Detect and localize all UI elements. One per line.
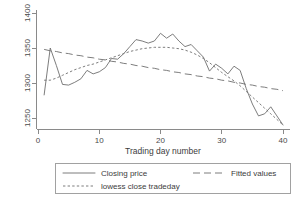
- y-tick-label: 1350: [23, 39, 32, 57]
- legend-label: lowess close tradeday: [101, 182, 180, 191]
- x-tick-label: 0: [36, 136, 41, 145]
- y-tick-label: 1300: [23, 74, 32, 92]
- x-tick-label: 40: [279, 136, 288, 145]
- legend-label: Fitted values: [231, 169, 276, 178]
- legend-label: Closing price: [101, 169, 148, 178]
- x-tick-label: 10: [95, 136, 104, 145]
- x-tick-label: 30: [217, 136, 226, 145]
- x-tick-label: 20: [156, 136, 165, 145]
- y-tick-label: 1400: [23, 4, 32, 22]
- chart-legend: Closing priceFitted valueslowess close t…: [56, 164, 291, 194]
- y-tick-label: 1250: [23, 109, 32, 127]
- chart-container: 1250130013501400 010203040 Trading day n…: [0, 0, 302, 201]
- stata-twoway-chart: 1250130013501400 010203040 Trading day n…: [0, 0, 302, 201]
- x-axis-title: Trading day number: [125, 146, 201, 156]
